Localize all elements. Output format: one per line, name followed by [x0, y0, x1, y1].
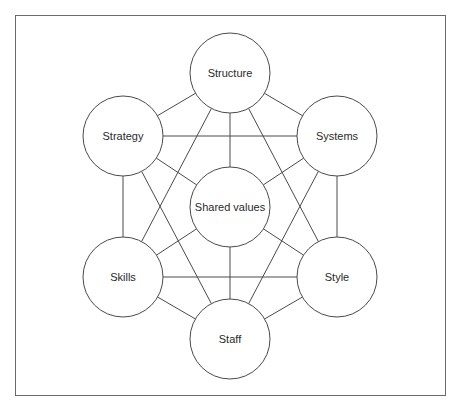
node-circles: StructureStrategySystemsShared valuesSki… [83, 33, 377, 379]
connector-strategy-shared-values [156, 158, 196, 185]
connector-skills-staff [158, 297, 196, 319]
connector-style-shared-values [263, 229, 303, 255]
node-shared-values: Shared values [190, 167, 270, 247]
node-strategy: Strategy [83, 96, 163, 176]
node-structure: Structure [190, 33, 270, 113]
node-label: Staff [219, 333, 242, 345]
seven-s-diagram: StructureStrategySystemsShared valuesSki… [0, 0, 459, 405]
node-systems: Systems [297, 96, 377, 176]
node-label: Skills [110, 271, 136, 283]
node-label: Style [325, 271, 349, 283]
node-staff: Staff [190, 299, 270, 379]
connector-structure-systems [264, 93, 302, 115]
connector-style-staff [265, 297, 303, 319]
node-label: Shared values [195, 201, 266, 213]
node-label: Systems [316, 130, 359, 142]
connector-skills-shared-values [156, 229, 196, 255]
connector-structure-strategy [157, 93, 195, 115]
node-label: Strategy [103, 130, 144, 142]
node-label: Structure [208, 67, 253, 79]
node-style: Style [297, 237, 377, 317]
connector-systems-shared-values [263, 158, 303, 185]
node-skills: Skills [83, 237, 163, 317]
